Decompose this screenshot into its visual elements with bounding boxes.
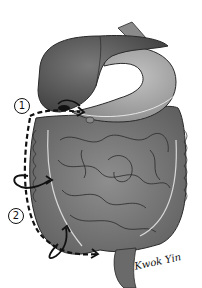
- rectum: [114, 248, 136, 288]
- marker-2-text: 2: [13, 210, 19, 221]
- large-intestine: [30, 106, 187, 254]
- marker-1-text: 1: [19, 100, 25, 111]
- marker-1: 1: [14, 98, 30, 114]
- anatomy-illustration: [0, 0, 202, 288]
- marker-2: 2: [8, 208, 24, 224]
